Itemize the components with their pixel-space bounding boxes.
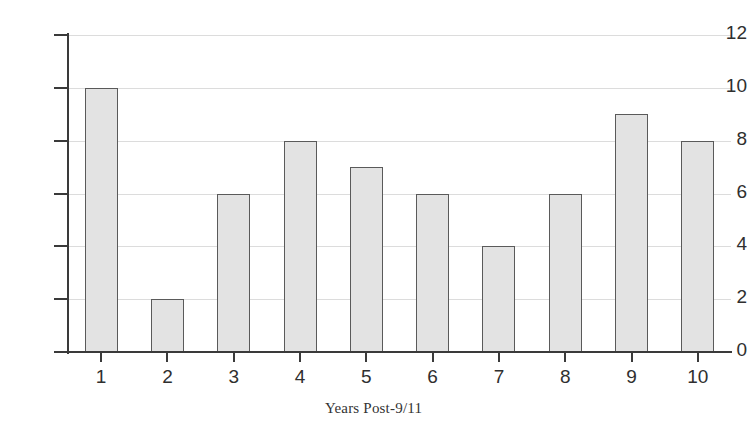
bar: [549, 194, 582, 353]
bar: [416, 194, 449, 353]
x-axis-label: 7: [469, 366, 529, 388]
x-axis-label: 1: [71, 366, 131, 388]
y-axis-label: 12: [705, 22, 747, 44]
y-axis-label: 10: [705, 75, 747, 97]
bar: [350, 167, 383, 352]
x-axis-tick: [631, 353, 633, 362]
y-axis-label: 4: [705, 233, 747, 255]
y-axis-label: 8: [705, 128, 747, 150]
x-axis-label: 2: [137, 366, 197, 388]
bar-chart: 024681012 12345678910 Years Post-9/11: [0, 0, 747, 436]
x-axis-tick: [564, 353, 566, 362]
y-axis-line: [67, 33, 69, 354]
x-axis-title: Years Post-9/11: [0, 400, 747, 417]
y-axis-tick: [54, 34, 68, 36]
x-axis-label: 6: [403, 366, 463, 388]
plot-area: [68, 35, 731, 352]
x-axis-tick: [233, 353, 235, 362]
x-axis-tick: [697, 353, 699, 362]
x-axis-label: 3: [204, 366, 264, 388]
y-axis-label: 2: [705, 286, 747, 308]
gridline: [68, 35, 731, 36]
y-axis-label: 0: [705, 339, 747, 361]
y-axis-tick: [54, 193, 68, 195]
x-axis-tick: [166, 353, 168, 362]
x-axis-label: 10: [668, 366, 728, 388]
bar: [85, 88, 118, 352]
x-axis-tick: [100, 353, 102, 362]
y-axis-label: 6: [705, 181, 747, 203]
y-axis-tick: [54, 140, 68, 142]
bar: [151, 299, 184, 352]
x-axis-label: 8: [535, 366, 595, 388]
bar: [615, 114, 648, 352]
y-axis-tick: [54, 351, 68, 353]
y-axis-tick: [54, 298, 68, 300]
x-axis-tick: [432, 353, 434, 362]
x-axis-label: 4: [270, 366, 330, 388]
x-axis-label: 9: [602, 366, 662, 388]
gridline: [68, 88, 731, 89]
y-axis-tick: [54, 245, 68, 247]
bar: [217, 194, 250, 353]
bar: [482, 246, 515, 352]
bar: [284, 141, 317, 352]
x-axis-tick: [299, 353, 301, 362]
y-axis-tick: [54, 87, 68, 89]
x-axis-label: 5: [336, 366, 396, 388]
x-axis-tick: [365, 353, 367, 362]
x-axis-tick: [498, 353, 500, 362]
